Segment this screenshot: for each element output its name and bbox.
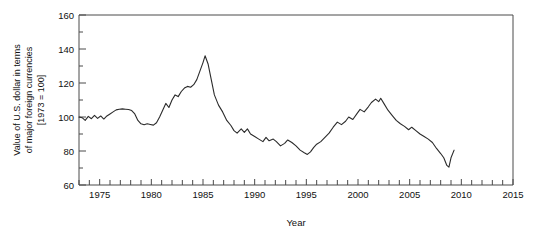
y-tick-label-120: 120 — [58, 78, 74, 89]
data-series-line — [79, 56, 454, 167]
y-tick-label-160: 160 — [58, 10, 74, 21]
y-tick-label-60: 60 — [63, 180, 74, 191]
y-axis-label-line-3: [1973 = 100] — [36, 75, 46, 125]
x-tick-label-1995: 1995 — [296, 189, 317, 200]
y-axis-tick-labels: 6080100120140160 — [58, 10, 74, 191]
x-tick-label-2015: 2015 — [502, 189, 523, 200]
plot-frame — [79, 15, 513, 185]
x-tick-label-1990: 1990 — [244, 189, 265, 200]
x-tick-label-1975: 1975 — [89, 189, 110, 200]
x-axis-ticks — [79, 179, 513, 185]
x-axis-title: Year — [286, 217, 305, 228]
y-axis-label-line-2: of major foreign currencies — [24, 46, 34, 153]
chart-figure: Value of U.S. dollar in terms of major f… — [0, 0, 536, 242]
y-tick-label-100: 100 — [58, 112, 74, 123]
y-axis-label: Value of U.S. dollar in terms of major f… — [12, 44, 46, 156]
chart-svg: Value of U.S. dollar in terms of major f… — [0, 0, 536, 242]
x-axis-tick-labels: 197519801985199019952000200520102015 — [89, 189, 523, 200]
y-axis-label-line-1: Value of U.S. dollar in terms — [12, 44, 22, 156]
y-tick-label-140: 140 — [58, 44, 74, 55]
x-tick-label-1980: 1980 — [141, 189, 162, 200]
y-axis-ticks — [79, 15, 86, 185]
x-tick-label-1985: 1985 — [192, 189, 213, 200]
y-tick-label-80: 80 — [63, 146, 74, 157]
x-tick-label-2005: 2005 — [399, 189, 420, 200]
x-tick-label-2000: 2000 — [347, 189, 368, 200]
x-tick-label-2010: 2010 — [451, 189, 472, 200]
